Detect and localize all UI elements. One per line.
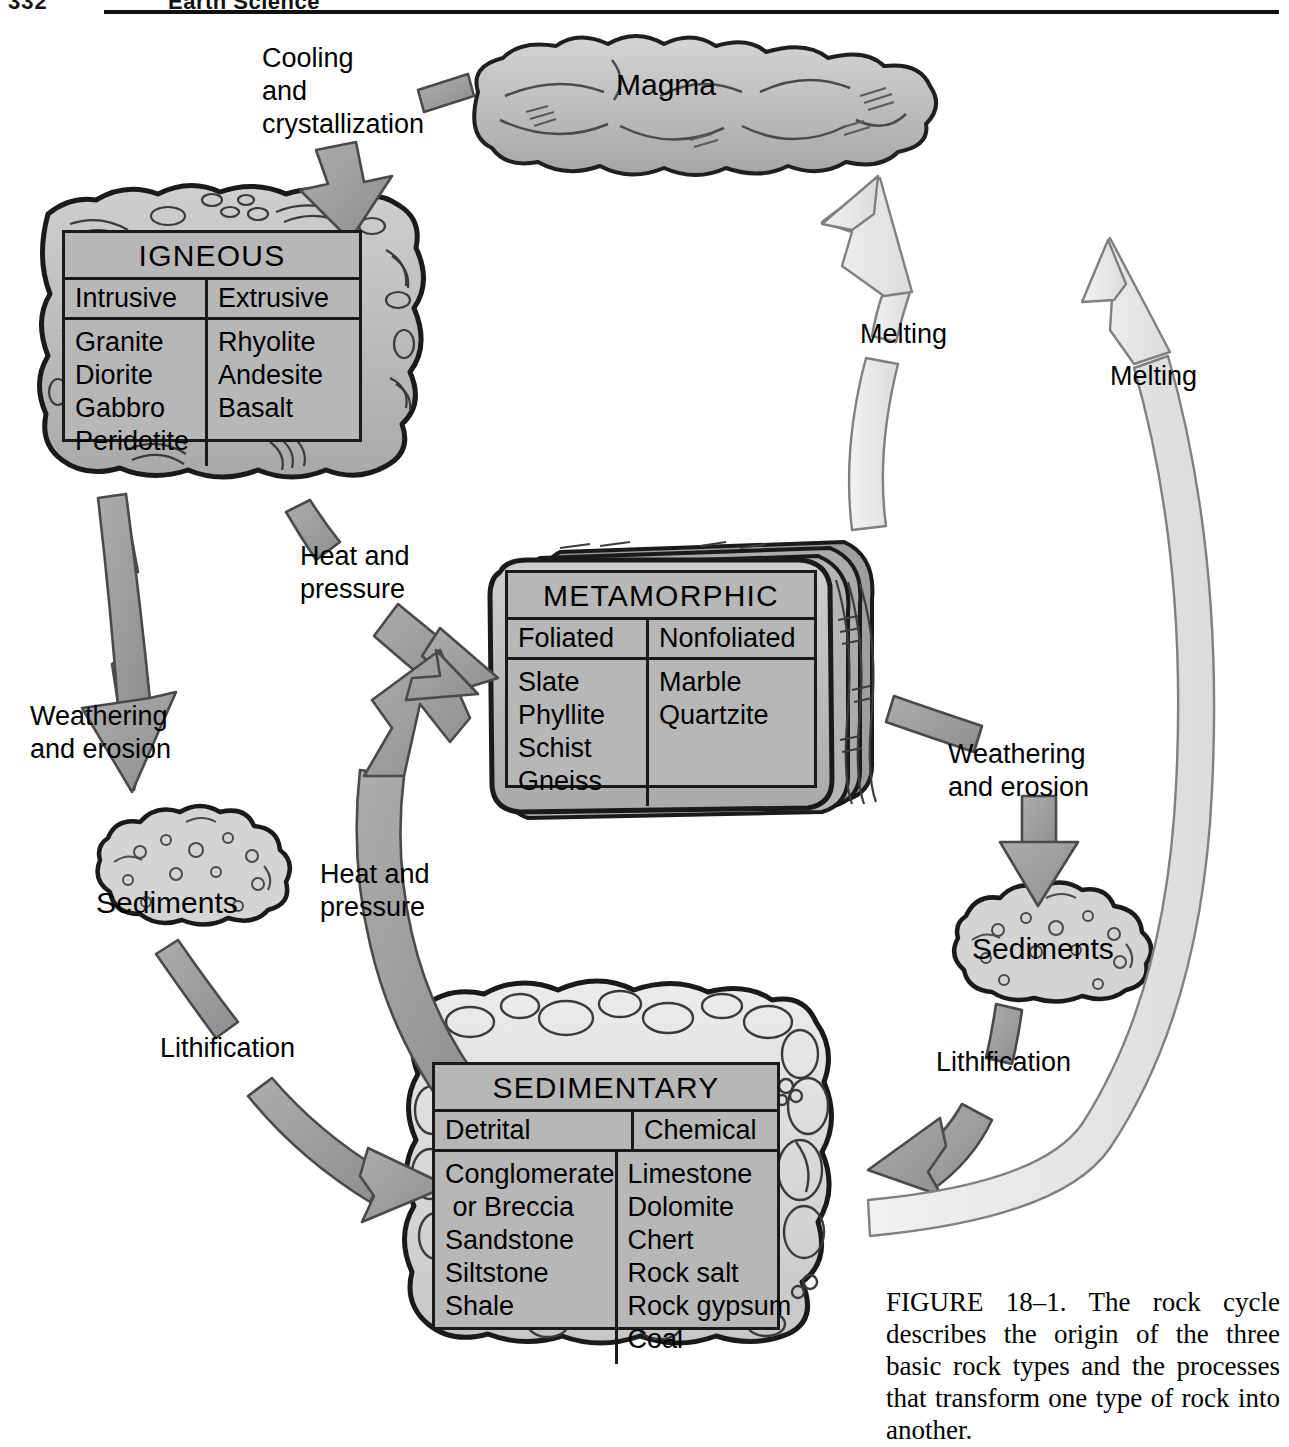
metamorphic-table: METAMORPHIC Foliated Nonfoliated Slate P… <box>505 570 817 788</box>
sedimentary-cell-1: Limestone Dolomite Chert Rock salt Rock … <box>615 1152 792 1364</box>
igneous-col-1: Extrusive <box>205 280 359 317</box>
arrow-melting-inner-shaft <box>849 358 898 530</box>
label-lithification-left: Lithification <box>160 1032 295 1065</box>
igneous-columns: Intrusive Extrusive <box>65 277 359 320</box>
metamorphic-columns: Foliated Nonfoliated <box>508 617 814 660</box>
label-melting-outer: Melting <box>1110 360 1197 393</box>
igneous-cell-0: Granite Diorite Gabbro Peridotite <box>65 320 205 466</box>
metamorphic-title: METAMORPHIC <box>508 573 814 617</box>
metamorphic-col-1: Nonfoliated <box>646 620 814 657</box>
sedimentary-title: SEDIMENTARY <box>435 1065 777 1109</box>
metamorphic-body: Slate Phyllite Schist Gneiss Marble Quar… <box>508 660 814 806</box>
label-weathering-erosion-left: Weathering and erosion <box>30 700 171 766</box>
igneous-body: Granite Diorite Gabbro Peridotite Rhyoli… <box>65 320 359 466</box>
sedimentary-col-0: Detrital <box>435 1112 631 1149</box>
sedimentary-cell-0: Conglomerate or Breccia Sandstone Siltst… <box>435 1152 615 1364</box>
sediments-left-label: Sediments <box>96 886 238 919</box>
arrow-melting-outer-head2 <box>1082 240 1126 302</box>
arrow-cooling-stub <box>418 74 474 112</box>
figure-caption: FIGURE 18–1. The rock cycle describes th… <box>886 1286 1280 1446</box>
arrow-weathering-left-shaft <box>98 494 150 706</box>
label-cooling-crystallization: Cooling and crystallization <box>262 42 424 141</box>
label-lithification-right: Lithification <box>936 1046 1071 1079</box>
magma-label: Magma <box>616 68 716 101</box>
label-heat-pressure-top: Heat and pressure <box>300 540 410 606</box>
arrow-lithification-left-stub <box>156 940 238 1038</box>
label-melting-inner: Melting <box>860 318 947 351</box>
sedimentary-table: SEDIMENTARY Detrital Chemical Conglomera… <box>432 1062 780 1330</box>
igneous-title: IGNEOUS <box>65 233 359 277</box>
label-weathering-erosion-right: Weathering and erosion <box>948 738 1089 804</box>
igneous-table: IGNEOUS Intrusive Extrusive Granite Dior… <box>62 230 362 442</box>
figure-page: 332 Earth Science <box>0 0 1289 1447</box>
magma-shape <box>474 36 936 175</box>
metamorphic-col-0: Foliated <box>508 620 646 657</box>
sedimentary-body: Conglomerate or Breccia Sandstone Siltst… <box>435 1152 777 1364</box>
metamorphic-cell-1: Marble Quartzite <box>646 660 814 806</box>
sedimentary-columns: Detrital Chemical <box>435 1109 777 1152</box>
igneous-col-0: Intrusive <box>65 280 205 317</box>
sediments-right-label: Sediments <box>972 932 1114 965</box>
igneous-cell-1: Rhyolite Andesite Basalt <box>205 320 359 466</box>
sedimentary-col-1: Chemical <box>631 1112 777 1149</box>
arrow-lithification-right-head <box>868 1118 946 1196</box>
metamorphic-cell-0: Slate Phyllite Schist Gneiss <box>508 660 646 806</box>
label-heat-pressure-bottom: Heat and pressure <box>320 858 430 924</box>
